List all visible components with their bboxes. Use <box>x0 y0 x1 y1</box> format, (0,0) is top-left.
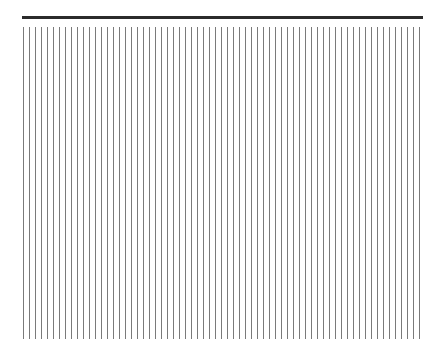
vertical-line <box>149 27 150 339</box>
vertical-line <box>83 27 84 339</box>
vertical-line <box>71 27 72 339</box>
vertical-line <box>113 27 114 339</box>
vertical-line <box>269 27 270 339</box>
vertical-line <box>173 27 174 339</box>
vertical-line <box>59 27 60 339</box>
vertical-line <box>377 27 378 339</box>
vertical-line <box>41 27 42 339</box>
vertical-line <box>95 27 96 339</box>
vertical-line <box>347 27 348 339</box>
vertical-line <box>143 27 144 339</box>
vertical-line <box>305 27 306 339</box>
vertical-line <box>89 27 90 339</box>
vertical-line <box>353 27 354 339</box>
vertical-line <box>179 27 180 339</box>
vertical-line <box>53 27 54 339</box>
vertical-line <box>317 27 318 339</box>
vertical-line <box>65 27 66 339</box>
vertical-line <box>329 27 330 339</box>
vertical-line <box>365 27 366 339</box>
vertical-line <box>215 27 216 339</box>
vertical-line <box>35 27 36 339</box>
vertical-line <box>257 27 258 339</box>
vertical-line <box>185 27 186 339</box>
vertical-line <box>263 27 264 339</box>
vertical-line <box>413 27 414 339</box>
vertical-line <box>227 27 228 339</box>
vertical-line <box>203 27 204 339</box>
vertical-line <box>101 27 102 339</box>
vertical-line <box>221 27 222 339</box>
vertical-line <box>395 27 396 339</box>
vertical-line <box>287 27 288 339</box>
vertical-line <box>371 27 372 339</box>
vertical-line <box>197 27 198 339</box>
vertical-line <box>311 27 312 339</box>
vertical-line <box>335 27 336 339</box>
vertical-line <box>281 27 282 339</box>
vertical-line <box>209 27 210 339</box>
vertical-line <box>155 27 156 339</box>
vertical-line <box>77 27 78 339</box>
figure-canvas <box>0 0 445 363</box>
vertical-line <box>389 27 390 339</box>
vertical-line <box>167 27 168 339</box>
vertical-line <box>407 27 408 339</box>
vertical-line <box>161 27 162 339</box>
vertical-line <box>323 27 324 339</box>
vertical-line <box>233 27 234 339</box>
vertical-line <box>251 27 252 339</box>
vertical-line <box>29 27 30 339</box>
vertical-line <box>341 27 342 339</box>
vertical-line <box>419 27 420 339</box>
vertical-line <box>125 27 126 339</box>
vertical-line <box>107 27 108 339</box>
vertical-line <box>239 27 240 339</box>
vertical-line <box>119 27 120 339</box>
vertical-line <box>245 27 246 339</box>
vertical-line <box>299 27 300 339</box>
vertical-line <box>131 27 132 339</box>
vertical-line <box>23 27 24 339</box>
vertical-line <box>191 27 192 339</box>
vertical-line <box>293 27 294 339</box>
vertical-line <box>275 27 276 339</box>
vertical-line <box>47 27 48 339</box>
vertical-line <box>359 27 360 339</box>
vertical-line <box>137 27 138 339</box>
vertical-line-pattern <box>0 0 445 363</box>
vertical-line <box>383 27 384 339</box>
vertical-line <box>401 27 402 339</box>
